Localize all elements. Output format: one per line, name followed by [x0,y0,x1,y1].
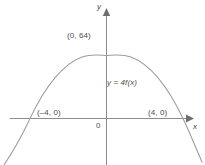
origin-label: 0 [96,121,101,130]
right-root-label: (4, 0) [148,108,167,117]
parabola-plot [0,0,205,165]
x-axis-label: x [193,122,197,131]
y-axis-arrowhead [103,8,110,16]
vertex-label: (0, 64) [67,31,91,40]
curve-equation-label: y = 4f(x) [107,78,137,87]
y-axis-label: y [97,2,101,11]
parabola-curve [4,55,202,165]
left-root-label: (–4, 0) [37,108,61,117]
graph-figure: (0, 64) y = 4f(x) (–4, 0) (4, 0) 0 y x [0,0,205,165]
